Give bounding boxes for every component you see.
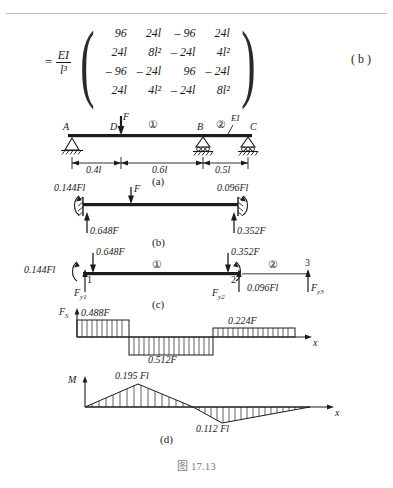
shear-hatch-2 [134,337,209,355]
shear-hatch-1 [82,320,122,337]
shear-hatch-3 [218,328,288,337]
element-two-member [242,273,308,274]
support-b-hatch [194,152,213,156]
matrix-cell: – 96 [166,24,200,43]
element-one-member [83,272,238,275]
matrix-cell: 4l² [132,81,166,100]
reaction-label-node3: Fy3 [311,283,324,296]
figure-number-caption: 图 17.13 [0,457,393,473]
reaction-label-right: 0.352F [237,226,266,236]
moment-region-positive [85,384,193,407]
shear-axis-y-arrow [75,308,80,315]
shear-value-positive-1: 0.488F [81,308,110,318]
figure-a: A D F ① B ② EI C 0.4l 0.6l 0.5l (a) [0,113,393,185]
load-label-f: F [134,184,140,194]
stiffness-matrix: 96 24l – 96 24l 24l 8l² – 24l 4l² – 96 –… [101,24,235,100]
header-rule [6,13,387,14]
moment-axis-x-arrow [327,405,334,410]
roller-wheel [242,147,246,151]
matrix-cell: – 24l [166,81,200,100]
element-label-one: ① [148,119,158,130]
roller-wheel [206,147,210,151]
moment-label-node2: 0.096Fl [247,283,278,293]
matrix-row: – 96 – 24l 96 – 24l [101,62,235,81]
matrix-row: 96 24l – 96 24l [101,24,235,43]
figure-b-graphics [0,184,393,246]
moment-region-negative [193,407,310,423]
stiffness-matrix-equation: = EI l³ ( 96 24l – 96 24l 24l 8l² – 24l … [44,24,262,100]
matrix-cell: 24l [101,43,132,62]
node-label-b: B [197,122,203,132]
figure-b: 0.144Fl F 0.096Fl 0.648F 0.352F (b) [0,184,393,246]
node-label-d: D [110,122,117,132]
matrix-row: 24l 8l² – 24l 4l² [101,43,235,62]
stiffness-label-ei: EI [231,114,240,123]
fraction-numerator: EI [56,49,71,62]
reaction-label-node2: Fy2 [212,288,225,301]
reaction-label-left: 0.648F [90,226,119,236]
shear-axis-y-label: FS [59,307,69,320]
support-c-roller [241,137,255,147]
load-arrow-head [118,126,125,135]
moment-peak-negative-label: 0.112 Fl [196,424,229,434]
matrix-cell: – 96 [101,62,132,81]
matrix-cell: 24l [101,81,132,100]
force-arrow-head-right [225,265,231,274]
coefficient-fraction: EI l³ [56,49,71,76]
moment-label-left: 0.144Fl [54,183,85,193]
moment-label-node1: 0.144Fl [24,265,55,275]
force-label-left: 0.648F [96,247,125,257]
figure-c: 0.648F 0.352F 0.144Fl 0.096Fl 1 2 3 ① ② … [0,245,393,307]
matrix-cell: 4l² [200,43,234,62]
figure-d-caption: (d) [160,433,173,445]
shear-block-positive-1 [77,320,129,337]
roller-wheel [201,147,205,151]
shear-value-negative: 0.512F [148,355,177,365]
figure-c-graphics [0,245,393,307]
force-arrow-head-left [90,265,96,274]
shear-value-positive-2: 0.224F [228,316,257,326]
reaction-arrow-head-node3 [305,269,310,277]
matrix-cell: – 24l [200,62,234,81]
moment-axis-x-label: x [335,408,339,418]
support-c-hatch [239,152,258,156]
moment-axis-y-label: M [68,375,76,385]
shear-block-negative [129,337,213,355]
bending-moment-diagram: M 0.195 Fl 0.112 Fl x (d) [0,365,393,445]
load-label-f: F [123,112,129,122]
moment-arrow-head-node2 [233,262,239,267]
support-b-roller [196,137,210,147]
matrix-cell: 96 [101,24,132,43]
matrix-cell: – 24l [166,43,200,62]
beam-member [83,203,238,206]
shear-force-diagram: FS 0.488F 0.512F 0.224F x [0,302,393,364]
moment-peak-positive-label: 0.195 Fl [115,371,149,381]
dimension-label-1: 0.4l [86,165,101,175]
node-label-1: 1 [87,275,92,285]
matrix-cell: 8l² [132,43,166,62]
node-label-2: 2 [231,275,236,285]
moment-label-right: 0.096Fl [217,183,248,193]
moment-hatch-negative [199,407,301,423]
dimension-label-2: 0.6l [152,165,167,175]
beam-member [68,134,252,137]
textbook-page: = EI l³ ( 96 24l – 96 24l 24l 8l² – 24l … [0,0,393,488]
shear-axis-x-label: x [313,338,317,348]
matrix-cell: 8l² [200,81,234,100]
moment-arrow-head-node1 [74,262,80,267]
support-a-hatch [62,151,81,155]
element-label-two: ② [216,119,226,130]
roller-wheel [251,147,255,151]
equals-sign: = [44,54,53,70]
matrix-row: 24l 4l² – 24l 8l² [101,81,235,100]
moment-axis-y-arrow [83,376,88,383]
fraction-denominator: l³ [58,63,69,76]
reaction-arrow-head-right [231,212,237,221]
reaction-arrow-head-left [84,212,90,221]
moment-arrow-head-right [240,196,246,201]
matrix-cell: 24l [200,24,234,43]
reaction-label-node1: Fy1 [74,288,87,301]
dimension-label-3: 0.5l [215,165,230,175]
matrix-cell: – 24l [132,62,166,81]
element-label-two: ② [268,259,278,270]
